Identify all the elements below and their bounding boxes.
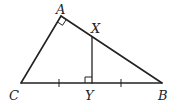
segment-ac [21, 16, 61, 83]
label-a: A [55, 2, 65, 17]
label-y: Y [85, 88, 95, 103]
label-x: X [90, 21, 101, 36]
triangle-diagram: A X C Y B [0, 0, 175, 108]
segment-ab [61, 16, 162, 83]
label-b: B [157, 88, 168, 103]
label-c: C [9, 88, 19, 103]
right-angle-marker-y [85, 77, 92, 83]
